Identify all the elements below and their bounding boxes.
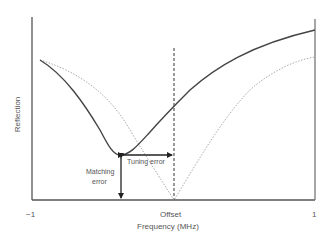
ideal-curve <box>40 57 315 200</box>
reflection-curve <box>40 30 315 155</box>
y-axis-label: Reflection <box>13 90 22 140</box>
tuning-error-label: Tuning error <box>127 158 165 165</box>
x-tick-max: 1 <box>312 210 316 219</box>
x-axis-label: Frequency (MHz) <box>137 222 199 231</box>
matching-error-label-line2: error <box>92 178 107 185</box>
x-tick-min: −1 <box>26 210 35 219</box>
chart-canvas <box>0 0 331 244</box>
x-tick-offset: Offset <box>160 210 181 219</box>
matching-error-label-line1: Matching <box>86 168 114 175</box>
